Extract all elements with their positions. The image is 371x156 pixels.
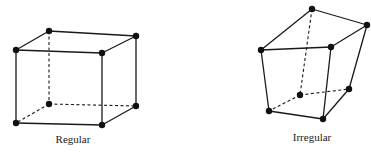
visible-edge (323, 89, 349, 119)
vertex-node (99, 50, 105, 56)
visible-edge (269, 111, 323, 119)
vertex-node (13, 120, 19, 126)
hidden-edge (300, 9, 312, 95)
vertex-node (320, 116, 326, 122)
vertex-node (133, 33, 139, 39)
visible-edge (261, 50, 269, 111)
visible-edge (49, 31, 136, 36)
vertex-node (266, 108, 272, 114)
vertex-node (346, 86, 352, 92)
visible-edge (16, 31, 49, 50)
visible-edge (16, 123, 102, 125)
visible-edge (16, 50, 102, 53)
irregular-label: Irregular (293, 131, 331, 143)
regular-hexahedron (13, 28, 139, 128)
vertex-node (46, 28, 52, 34)
visible-edge (102, 106, 136, 125)
hidden-edge (300, 89, 349, 95)
vertex-node (133, 103, 139, 109)
vertex-node (297, 92, 303, 98)
vertex-node (309, 6, 315, 12)
visible-edge (323, 47, 331, 119)
vertex-node (13, 47, 19, 53)
hidden-edge (269, 95, 300, 111)
regular-label: Regular (56, 133, 91, 145)
vertex-node (364, 22, 370, 28)
visible-edge (261, 9, 312, 50)
hidden-edge (49, 104, 136, 106)
vertex-node (46, 101, 52, 107)
vertex-node (328, 44, 334, 50)
vertex-node (99, 122, 105, 128)
hidden-edge (16, 104, 49, 123)
vertex-node (258, 47, 264, 53)
irregular-hexahedron (258, 6, 370, 122)
visible-edge (261, 47, 331, 50)
visible-edge (312, 9, 367, 25)
visible-edge (102, 36, 136, 53)
